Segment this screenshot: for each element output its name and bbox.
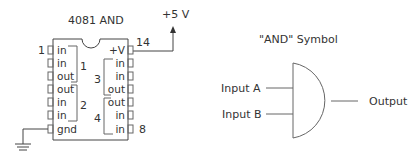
chip-title: 4081 AND — [68, 14, 124, 27]
ground-icon — [15, 129, 48, 150]
right-pin-label: in — [115, 109, 125, 121]
left-pins — [48, 46, 53, 133]
left-pin-label: out — [57, 70, 74, 82]
right-pins — [128, 46, 133, 133]
output-label: Output — [369, 95, 408, 108]
right-pin-label: in — [115, 123, 125, 135]
pin-number-14: 14 — [136, 36, 150, 49]
gate-number-3: 3 — [94, 73, 101, 86]
left-pin-label: in — [57, 57, 67, 69]
diagram-canvas: 4081 AND +5 V 1 14 8 in in out out in in… — [0, 0, 411, 156]
pin-number-8: 8 — [139, 123, 146, 136]
right-pin-label: +V — [109, 44, 126, 56]
input-a-label: Input A — [221, 82, 261, 95]
pin-number-1: 1 — [38, 44, 45, 57]
gate-brackets — [68, 46, 113, 134]
left-pin-label: in — [57, 44, 67, 56]
input-b-label: Input B — [222, 108, 262, 121]
left-pin-label: in — [57, 109, 67, 121]
left-pin-label: in — [57, 96, 67, 108]
gate-number-4: 4 — [94, 112, 101, 125]
symbol-title: "AND" Symbol — [259, 33, 338, 46]
and-gate-icon — [293, 63, 325, 138]
right-pin-label: out — [108, 83, 125, 95]
gate-number-1: 1 — [80, 60, 87, 73]
power-label: +5 V — [162, 8, 190, 21]
right-pin-label: in — [115, 57, 125, 69]
left-pin-label: gnd — [57, 123, 77, 135]
right-pin-label: in — [115, 70, 125, 82]
gate-number-2: 2 — [80, 99, 87, 112]
arrow-up-icon — [170, 26, 176, 33]
